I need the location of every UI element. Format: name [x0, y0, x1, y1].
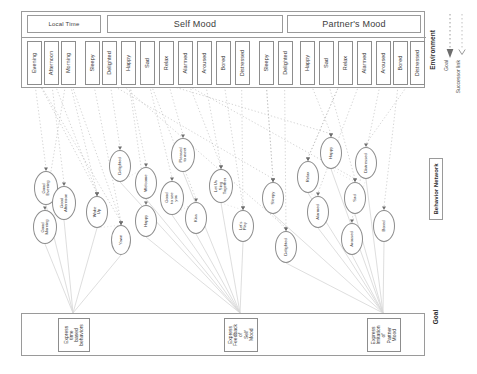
behavior-node-welcome[interactable]: Welcome — [135, 167, 157, 199]
successor-link — [221, 203, 243, 210]
sensor-bored[interactable]: Bored — [216, 41, 231, 85]
sensor-label: Aroused — [381, 53, 387, 74]
sensor-alarmed[interactable]: Alarmed — [178, 41, 193, 85]
sensor-morning[interactable]: Morning — [61, 41, 76, 85]
sensor-label: Happy — [305, 55, 311, 71]
activation-link — [51, 73, 98, 193]
goal-express-feedback-of-self-mood[interactable]: ExpressFeedbackofSelfMood — [224, 318, 258, 352]
behavior-node-label: Relax — [306, 172, 310, 183]
sensor-label: Distressed — [415, 50, 421, 76]
behavior-node-alarmed[interactable]: Alarmed — [307, 196, 329, 228]
sensor-happy[interactable]: Happy — [300, 41, 315, 85]
layer-label-goal-text: Goal — [433, 310, 440, 324]
sensor-sad[interactable]: Sad — [319, 41, 334, 85]
behavior-node-label: GoodAfternoon — [60, 194, 69, 212]
behavior-node-relax[interactable]: Relax — [297, 161, 319, 193]
behavior-node-sad[interactable]: Sad — [344, 182, 366, 214]
sensor-aroused[interactable]: Aroused — [376, 41, 391, 85]
sensor-afternoon[interactable]: Afternoon — [44, 41, 59, 85]
behavior-node-let-us-sing-together[interactable]: Let UsSingTogether — [209, 169, 233, 203]
sensor-label: Sleepy — [90, 54, 96, 71]
behavior-node-distressed[interactable]: Distressed — [355, 147, 377, 179]
environment-group-headers: Local Time Self Mood Partner's Mood — [22, 12, 426, 36]
activation-link — [285, 73, 287, 228]
behavior-node-label: Sad — [353, 194, 357, 201]
behavior-node-delighted[interactable]: Delighted — [275, 231, 297, 263]
sensor-delighted[interactable]: Delighted — [102, 41, 117, 85]
sensor-label: Sleepy — [264, 54, 270, 71]
behavior-node-label: Let UsSingTogether — [214, 178, 227, 194]
behavior-node-happy[interactable]: Happy — [320, 137, 342, 169]
sensor-label: Aroused — [202, 53, 208, 74]
sensor-label: Morning — [66, 53, 72, 73]
sensor-alarmed[interactable]: Alarmed — [357, 41, 372, 85]
group-header-partner-mood: Partner's Mood — [287, 15, 421, 33]
behavior-node-label: GoodMorning — [41, 219, 50, 234]
behavior-node-delighted[interactable]: Delighted — [109, 150, 131, 182]
behavior-node-label: Goodto seeyou — [165, 192, 178, 203]
goal-link — [383, 242, 384, 313]
goal-link — [146, 237, 240, 313]
sensor-label: Evening — [32, 53, 38, 73]
sensor-relax[interactable]: Relax — [338, 41, 353, 85]
sensor-label: Delighted — [107, 51, 113, 75]
behavior-node-label: Happy — [144, 215, 148, 227]
sensor-distressed[interactable]: Distressed — [410, 41, 425, 85]
activation-link — [266, 73, 274, 179]
goal-link — [273, 214, 383, 313]
legend-successor-link-label: Successor link — [455, 60, 461, 93]
behavior-node-sleepy[interactable]: Sleepy — [262, 182, 284, 214]
sensor-evening[interactable]: Evening — [27, 41, 42, 85]
sensor-aroused[interactable]: Aroused — [197, 41, 212, 85]
activation-link — [384, 73, 400, 207]
behavior-node-label: Happy — [329, 147, 333, 159]
behavior-node-wake-up[interactable]: WakeUp — [86, 196, 108, 228]
group-header-self-mood-label: Self Mood — [174, 19, 216, 29]
behavior-node-good-to-see-you[interactable]: Goodto seeyou — [160, 181, 184, 215]
environment-divider — [22, 37, 426, 38]
behavior-node-good-afternoon[interactable]: GoodAfternoon — [52, 186, 76, 220]
group-header-self-mood: Self Mood — [107, 15, 283, 33]
behavior-node-label: Sleepy — [271, 192, 275, 205]
layer-label-environment-text: Environment — [430, 30, 437, 70]
behavior-node-aroused[interactable]: Aroused — [341, 223, 363, 255]
goal-link — [366, 179, 383, 313]
goal-link — [352, 255, 383, 313]
behavior-node-label: Bored — [382, 220, 386, 231]
sensor-label: Alarmed — [362, 53, 368, 74]
sensor-sleepy[interactable]: Sleepy — [85, 41, 100, 85]
sensor-distressed[interactable]: Distressed — [235, 41, 250, 85]
sensor-sad[interactable]: Sad — [140, 41, 155, 85]
group-header-local-time-label: Local Time — [48, 21, 79, 27]
goal-express-imitation-of-partner-mood[interactable]: ExpressImitationofPartnerMood — [367, 318, 401, 352]
sensor-sleepy[interactable]: Sleepy — [259, 41, 274, 85]
successor-link — [331, 169, 355, 182]
behavior-node-pleased-to-meet[interactable]: Pleasedto meet — [171, 138, 195, 172]
behavior-node-good-morning[interactable]: GoodMorning — [33, 210, 57, 244]
goal-label: ExpressImitationofPartnerMood — [371, 326, 397, 345]
behavior-node-happy[interactable]: Happy — [135, 205, 157, 237]
sensor-label: Afternoon — [49, 51, 55, 75]
goal-link — [73, 255, 121, 313]
sensor-label: Bored — [221, 56, 227, 71]
behavior-node-yawn[interactable]: Yawn — [111, 225, 131, 255]
legend: Goal Successor link — [443, 8, 477, 88]
group-header-local-time: Local Time — [27, 15, 101, 33]
behavior-node-kiss[interactable]: Kiss — [185, 202, 207, 234]
behavior-node-bored[interactable]: Bored — [373, 210, 395, 242]
sensor-relax[interactable]: Relax — [159, 41, 174, 85]
successor-link — [273, 214, 286, 231]
sensor-happy[interactable]: Happy — [121, 41, 136, 85]
goal-link — [64, 220, 73, 313]
sensor-delighted[interactable]: Delighted — [278, 41, 293, 85]
layer-label-behavior-network: Behavior Network — [429, 158, 443, 220]
goal-link — [286, 263, 383, 313]
sensor-label: Relax — [343, 56, 349, 70]
goal-link — [240, 242, 243, 313]
sensor-bored[interactable]: Bored — [393, 41, 408, 85]
behavior-node-let-s-play[interactable]: Let'sPlay — [232, 210, 254, 242]
activation-link — [242, 73, 244, 207]
sensor-label: Bored — [398, 56, 404, 71]
sensor-label: Delighted — [283, 51, 289, 75]
goal-express-time-based-behaviors[interactable]: Expresstimebasedbehaviors — [58, 318, 90, 352]
